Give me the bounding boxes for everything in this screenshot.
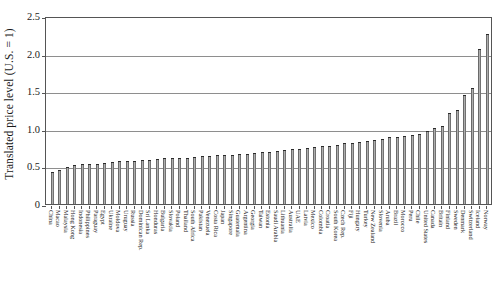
x-axis-tick-mark	[411, 206, 412, 209]
bar	[111, 162, 114, 205]
x-axis-tick-mark	[396, 206, 397, 209]
bar	[133, 161, 136, 205]
bar	[246, 154, 249, 205]
x-axis-tick-label: Britain	[437, 210, 443, 227]
x-axis-tick-mark	[156, 206, 157, 209]
bar	[336, 145, 339, 205]
bar	[403, 136, 406, 205]
x-axis-tick-label: Australia	[287, 210, 293, 233]
x-axis-tick-label: South Korea	[332, 210, 338, 241]
bar	[448, 113, 451, 205]
bar	[216, 155, 219, 205]
bar	[441, 126, 444, 205]
bar	[201, 156, 204, 205]
bar	[418, 134, 421, 205]
x-axis-tick-label: Georgia	[250, 210, 256, 230]
bar	[238, 154, 241, 205]
bar	[171, 158, 174, 205]
x-axis-tick-mark	[186, 206, 187, 209]
x-axis-tick-mark	[231, 206, 232, 209]
x-axis-tick-mark	[389, 206, 390, 209]
x-axis-tick-label: Iceland	[475, 210, 481, 228]
x-axis-tick-label: Philippines	[85, 210, 91, 238]
bar	[381, 139, 384, 205]
x-axis-tick-mark	[111, 206, 112, 209]
x-axis-tick-mark	[314, 206, 315, 209]
bar	[88, 164, 91, 205]
x-axis-tick-mark	[119, 206, 120, 209]
x-axis-tick-mark	[336, 206, 337, 209]
bar	[118, 161, 121, 205]
x-axis-tick-mark	[344, 206, 345, 209]
x-axis-tick-mark	[381, 206, 382, 209]
x-axis-tick-label: United States	[422, 210, 428, 243]
bar	[343, 143, 346, 205]
x-axis-tick-label: Sri Lanka	[145, 210, 151, 234]
x-axis-tick-mark	[434, 206, 435, 209]
x-axis-tick-mark	[194, 206, 195, 209]
bar	[276, 151, 279, 205]
plot-area	[45, 17, 492, 205]
x-axis-tick-label: Canada	[430, 210, 436, 229]
x-axis-tick-mark	[66, 206, 67, 209]
x-axis-tick-mark	[419, 206, 420, 209]
x-axis-tick-mark	[441, 206, 442, 209]
x-axis-tick-mark	[239, 206, 240, 209]
x-axis-tick-label: Czech Rep.	[340, 210, 346, 239]
bar	[388, 137, 391, 205]
x-axis-tick-mark	[276, 206, 277, 209]
bar	[366, 141, 369, 205]
y-axis-tick-label: 2.5	[27, 12, 40, 22]
x-axis-tick-label: Norway	[482, 210, 488, 230]
x-axis-tick-label: Brazil	[392, 210, 398, 225]
bar	[433, 128, 436, 205]
x-axis-line	[45, 204, 492, 205]
bar	[163, 158, 166, 205]
x-axis-tick-label: Russia	[130, 210, 136, 227]
y-axis-tick-label: 2.0	[27, 50, 40, 60]
x-axis-tick-label: Venezuela	[205, 210, 211, 235]
x-axis-tick-mark	[134, 206, 135, 209]
bar	[321, 146, 324, 205]
x-axis-tick-label: Denmark	[460, 210, 466, 233]
x-axis-tick-label: Ukraine	[107, 210, 113, 230]
x-axis-tick-label: Singapore	[227, 210, 233, 235]
x-axis-tick-mark	[164, 206, 165, 209]
x-axis-tick-label: Honduras	[152, 210, 158, 234]
bar	[178, 158, 181, 205]
x-axis-tick-mark	[201, 206, 202, 209]
x-axis-tick-label: Hungary	[355, 210, 361, 232]
x-axis-tick-label: Pakistan	[197, 210, 203, 231]
bar	[186, 158, 189, 205]
bar	[148, 160, 151, 205]
x-axis-tick-label: Taiwan	[257, 210, 263, 228]
bar	[51, 172, 54, 205]
x-axis-tick-mark	[456, 206, 457, 209]
x-axis-tick-mark	[329, 206, 330, 209]
bar	[103, 163, 106, 205]
x-axis-tick-label: Hong Kong	[70, 210, 76, 239]
x-axis-tick-mark	[89, 206, 90, 209]
x-axis-tick-mark	[321, 206, 322, 209]
y-axis-title-container: Translated price level (U.S. = 1)	[0, 0, 18, 208]
y-axis-tick-labels: 00.51.01.52.02.5	[18, 0, 44, 292]
bar	[313, 147, 316, 205]
x-axis-tick-label: UAE	[295, 210, 301, 223]
x-axis-tick-mark	[246, 206, 247, 209]
x-axis-tick-label: Switzerland	[467, 210, 473, 240]
x-axis-tick-label: Argentina	[242, 210, 248, 235]
bar	[478, 49, 481, 205]
bar	[426, 131, 429, 205]
x-axis-tick-label: Paraguay	[92, 210, 98, 233]
bar	[306, 148, 309, 205]
x-axis-tick-label: Croatia	[325, 210, 331, 228]
x-axis-tick-label: Chile	[415, 210, 421, 223]
x-axis-tick-mark	[479, 206, 480, 209]
bar	[396, 137, 399, 205]
x-axis-tick-mark	[269, 206, 270, 209]
x-axis-category-labels: ChinaMacaoMalaysiaHong KongIndonesiaPhil…	[45, 206, 492, 292]
x-axis-tick-mark	[464, 206, 465, 209]
x-axis-tick-mark	[141, 206, 142, 209]
x-axis-tick-mark	[366, 206, 367, 209]
x-axis-tick-label: Peru	[407, 210, 413, 221]
